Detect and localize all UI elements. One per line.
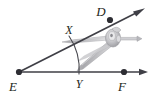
- compass-screw-shaft: [119, 37, 138, 40]
- point-label-e: E: [8, 79, 17, 94]
- point-label-x: X: [64, 23, 73, 37]
- compass-hinge-pin: [110, 34, 113, 38]
- point-label-f: F: [117, 79, 127, 94]
- compass-screw-tip: [137, 36, 142, 41]
- point-dot-f: [121, 69, 127, 75]
- ray-ed-line: [19, 11, 140, 72]
- point-dot-e: [16, 69, 22, 75]
- point-dot-d: [107, 17, 113, 23]
- geometry-figure: E D F X Y: [0, 0, 151, 96]
- ray-ef-arrowhead: [139, 69, 148, 75]
- point-label-d: D: [95, 4, 106, 19]
- geometry-figure-canvas: E D F X Y: [0, 0, 151, 96]
- compass-tool: [62, 27, 142, 71]
- compass-screw-collar: [116, 35, 120, 42]
- point-label-y: Y: [76, 77, 84, 91]
- ray-ed-arrowhead: [133, 8, 145, 16]
